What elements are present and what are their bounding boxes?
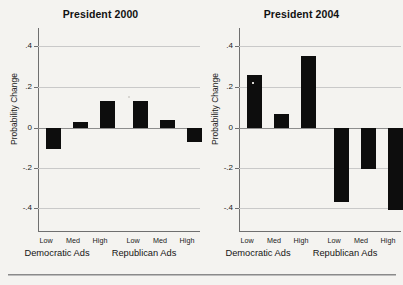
panel-president-2000: President 2000 Probability Change .4 .2 … — [0, 0, 201, 268]
bar-2000-dem-high — [100, 101, 115, 128]
ytick-mark-0.2-2004 — [235, 87, 239, 88]
ytick-mark-0-2000 — [34, 128, 38, 129]
gridline--0.2-2000 — [38, 168, 200, 169]
xgroup-2004-republican: Republican Ads — [290, 248, 400, 258]
bar-2004-dem-high — [301, 56, 316, 128]
ytick-label--0.4-2004: -.4 — [207, 203, 233, 212]
ytick-mark-0-2004 — [235, 128, 239, 129]
ytick-label--0.2-2000: -.2 — [6, 163, 32, 172]
xtick-2000-dem-high: High — [83, 236, 117, 245]
ytick-label-0.4-2004: .4 — [207, 41, 233, 50]
bar-2004-rep-med — [361, 128, 376, 169]
scan-speck — [252, 82, 254, 84]
ytick-mark-0.4-2000 — [34, 46, 38, 47]
ytick-label-0.2-2004: .2 — [207, 82, 233, 91]
bar-2000-rep-med — [160, 120, 175, 128]
bar-2004-dem-med — [274, 114, 289, 128]
gridline-0-2000 — [38, 128, 200, 129]
plot-area-2000: .4 .2 0 -.2 -.4 — [38, 28, 200, 232]
gridline-0.4-2000 — [38, 46, 200, 47]
page-divider-rule-shadow — [8, 275, 396, 276]
bar-2000-rep-high — [187, 128, 202, 142]
ytick-mark--0.2-2000 — [34, 168, 38, 169]
gridline-0.2-2000 — [38, 87, 200, 88]
panel-president-2004: President 2004 Probability Change .4 .2 … — [201, 0, 402, 268]
gridline--0.4-2004 — [239, 208, 401, 209]
panel-title-2004: President 2004 — [201, 8, 402, 20]
bar-2004-rep-high — [388, 128, 403, 210]
plot-area-2004: .4 .2 0 -.2 -.4 — [239, 28, 401, 232]
ytick-label--0.2-2004: -.2 — [207, 163, 233, 172]
panel-title-2000: President 2000 — [0, 8, 201, 20]
bar-2004-dem-low — [247, 75, 262, 128]
xgroup-2000-republican: Republican Ads — [89, 248, 199, 258]
ytick-mark--0.4-2000 — [34, 208, 38, 209]
bar-2004-rep-low — [334, 128, 349, 202]
gridline-0.4-2004 — [239, 46, 401, 47]
y-axis-label-2004: Probability Change — [210, 59, 220, 159]
caption-faint-text — [10, 277, 396, 284]
xtick-2000-rep-high: High — [170, 236, 204, 245]
gridline-0.2-2004 — [239, 87, 401, 88]
xtick-2004-rep-high: High — [371, 236, 403, 245]
y-axis-label-2000: Probability Change — [9, 59, 19, 159]
ytick-label--0.4-2000: -.4 — [6, 203, 32, 212]
gridline-0-2004 — [239, 128, 401, 129]
ytick-mark-0.2-2000 — [34, 87, 38, 88]
x-axis-line-2000 — [38, 231, 200, 232]
y-axis-line-2004 — [239, 28, 240, 232]
ytick-mark-0.4-2004 — [235, 46, 239, 47]
bar-2000-dem-med — [73, 122, 88, 128]
gridline--0.4-2000 — [38, 208, 200, 209]
y-axis-line-2000 — [38, 28, 39, 232]
gridline--0.2-2004 — [239, 168, 401, 169]
ytick-label-0.2-2000: .2 — [6, 82, 32, 91]
scan-speck — [128, 96, 130, 98]
ytick-label-0-2004: 0 — [207, 123, 233, 132]
ytick-label-0.4-2000: .4 — [6, 41, 32, 50]
xtick-2004-dem-high: High — [284, 236, 318, 245]
ytick-mark--0.2-2004 — [235, 168, 239, 169]
x-axis-line-2004 — [239, 231, 401, 232]
ytick-label-0-2000: 0 — [6, 123, 32, 132]
bar-2000-dem-low — [46, 128, 61, 149]
ytick-mark--0.4-2004 — [235, 208, 239, 209]
figure-canvas: President 2000 Probability Change .4 .2 … — [0, 0, 403, 285]
bar-2000-rep-low — [133, 101, 148, 128]
